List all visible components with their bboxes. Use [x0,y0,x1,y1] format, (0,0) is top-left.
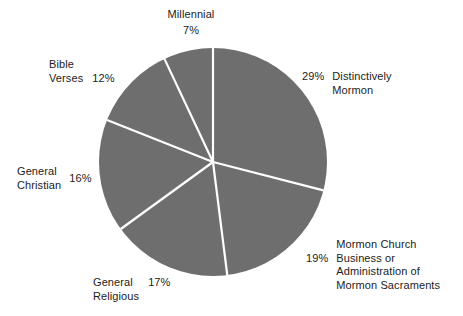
pie-label-distinctively-mormon-text: Distinctively Mormon [332,70,391,97]
pie-label-millennial: Millennial 7% [141,8,241,37]
pie-label-general-christian: General Christian 16% [17,165,92,192]
pie-label-millennial-percent: 7% [183,24,199,38]
pie-label-general-religious: General Religious 17% [93,276,170,303]
pie-label-general-religious-percent: 17% [148,276,170,290]
pie-label-distinctively-mormon: 29% Distinctively Mormon [302,70,392,97]
pie-chart-figure: Millennial 7% 29% Distinctively Mormon 1… [0,0,463,316]
pie-label-general-christian-text: General Christian [17,165,61,192]
pie-label-general-religious-text: General Religious [93,276,139,303]
pie-label-mormon-church-business-text: Mormon Church Business or Administration… [336,238,440,292]
pie-label-general-christian-percent: 16% [69,172,91,186]
pie-label-mormon-church-business: 19% Mormon Church Business or Administra… [306,238,440,292]
pie-label-millennial-text: Millennial [168,8,215,22]
pie-label-distinctively-mormon-percent: 29% [302,70,324,84]
pie-label-bible-verses: Bible Verses 12% [49,58,115,85]
pie-label-bible-verses-percent: 12% [92,72,114,86]
pie-label-bible-verses-text: Bible Verses [49,58,83,85]
pie-label-mormon-church-business-percent: 19% [306,252,328,266]
